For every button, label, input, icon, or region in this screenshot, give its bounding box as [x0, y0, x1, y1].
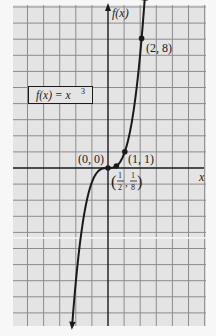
point-label-2-8: (2, 8) [146, 41, 172, 55]
svg-text:1: 1 [118, 171, 122, 180]
cubic-function-graph: f(x) x f(x) = x 3 (2, 8) (1, 1) (0, 0) (… [0, 0, 216, 336]
svg-text:1: 1 [131, 171, 135, 180]
svg-text:8: 8 [131, 183, 135, 192]
y-axis-label: f(x) [112, 6, 129, 20]
data-point [114, 163, 120, 169]
point-label-0-0: (0, 0) [78, 152, 104, 166]
x-axis-label: x [198, 170, 205, 184]
svg-text:(: ( [111, 173, 116, 191]
graph-paper [13, 5, 206, 326]
function-label: f(x) = x [36, 89, 71, 102]
svg-text:): ) [137, 173, 142, 191]
data-point [122, 149, 128, 155]
svg-text:,: , [125, 176, 128, 188]
function-label-exponent: 3 [81, 87, 85, 96]
point-label-1-1: (1, 1) [128, 152, 154, 166]
scan-band [13, 237, 206, 239]
data-point [105, 165, 111, 171]
data-point [139, 36, 145, 42]
svg-text:2: 2 [118, 183, 122, 192]
